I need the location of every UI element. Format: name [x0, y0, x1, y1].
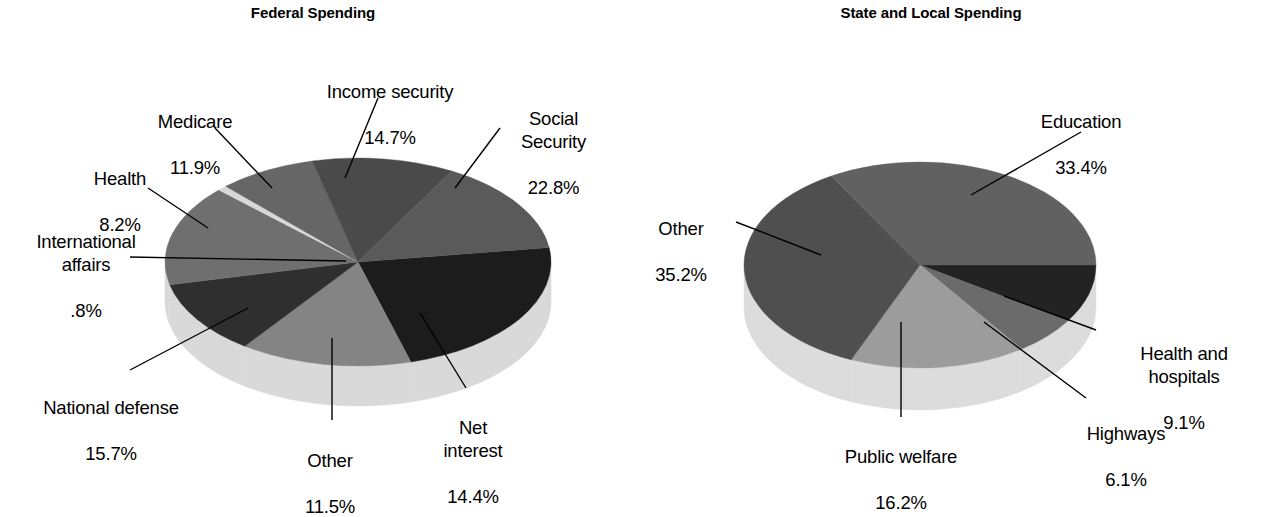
label-federal-other-value: 11.5% — [270, 496, 390, 517]
label-federal-other: Other 11.5% — [270, 427, 390, 517]
label-education: Education 33.4% — [996, 88, 1166, 203]
label-state-other-name: Other — [626, 218, 736, 241]
label-social-security-name: Social Security — [496, 108, 611, 154]
label-income-security-value: 14.7% — [300, 127, 480, 150]
label-state-other: Other 35.2% — [626, 195, 736, 310]
label-education-name: Education — [996, 111, 1166, 134]
label-public-welfare-value: 16.2% — [806, 492, 996, 515]
label-health-name: Health — [60, 168, 180, 191]
label-highways-value: 6.1% — [1056, 469, 1196, 492]
label-net-interest-value: 14.4% — [418, 486, 528, 509]
label-social-security: Social Security 22.8% — [496, 85, 611, 223]
label-public-welfare-name: Public welfare — [806, 446, 996, 469]
label-net-interest: Net interest 14.4% — [418, 394, 528, 517]
label-public-welfare: Public welfare 16.2% — [806, 423, 996, 517]
label-national-defense-value: 15.7% — [6, 443, 216, 466]
label-income-security: Income security 14.7% — [300, 58, 480, 173]
label-national-defense-name: National defense — [6, 397, 216, 420]
label-education-value: 33.4% — [996, 157, 1166, 180]
label-international-affairs: International affairs .8% — [0, 208, 172, 346]
panel-federal-spending: Federal Spending Income security 14.7% S… — [0, 0, 626, 492]
label-net-interest-name: Net interest — [418, 417, 528, 463]
label-health-hospitals-name: Health and hospitals — [1104, 343, 1264, 389]
label-highways-name: Highways — [1056, 423, 1196, 446]
label-international-affairs-name: International affairs — [0, 231, 172, 277]
label-state-other-value: 35.2% — [626, 264, 736, 287]
label-international-affairs-value: .8% — [0, 300, 172, 323]
label-income-security-name: Income security — [300, 81, 480, 104]
panel-state-local-spending: State and Local Spending Education 33.4%… — [626, 0, 1266, 492]
label-medicare-name: Medicare — [120, 111, 270, 134]
label-highways: Highways 6.1% — [1056, 400, 1196, 515]
label-national-defense: National defense 15.7% — [6, 374, 216, 489]
label-federal-other-name: Other — [270, 450, 390, 473]
label-social-security-value: 22.8% — [496, 177, 611, 200]
